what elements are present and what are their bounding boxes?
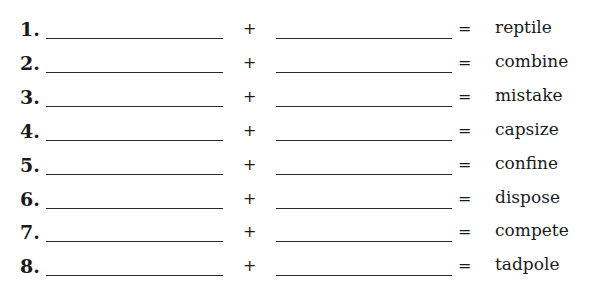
second-syllable-blank[interactable] [276,140,452,141]
item-number: 5. [20,154,40,176]
item-number: 3. [20,86,40,108]
first-syllable-blank[interactable] [46,275,223,276]
second-syllable-blank[interactable] [276,241,452,242]
second-syllable-blank[interactable] [276,72,452,73]
second-syllable-blank[interactable] [276,38,452,39]
target-word: combine [495,50,568,72]
plus-sign: + [243,87,256,107]
plus-sign: + [243,53,256,73]
item-number: 6. [20,188,40,210]
first-syllable-blank[interactable] [46,38,223,39]
plus-sign: + [243,256,256,276]
worksheet-row: 4. + = capsize [0,120,602,154]
target-word: dispose [495,186,560,208]
equals-sign: = [458,19,471,39]
worksheet-row: 2. + = combine [0,52,602,86]
equals-sign: = [458,256,471,276]
first-syllable-blank[interactable] [46,208,223,209]
worksheet-row: 1. + = reptile [0,18,602,52]
second-syllable-blank[interactable] [276,208,452,209]
first-syllable-blank[interactable] [46,174,223,175]
item-number: 7. [20,221,40,243]
target-word: confine [495,152,558,174]
target-word: tadpole [495,253,559,275]
target-word: reptile [495,16,552,38]
worksheet-row: 7. + = compete [0,221,602,255]
plus-sign: + [243,19,256,39]
plus-sign: + [243,155,256,175]
first-syllable-blank[interactable] [46,140,223,141]
item-number: 4. [20,120,40,142]
target-word: mistake [495,84,563,106]
plus-sign: + [243,222,256,242]
second-syllable-blank[interactable] [276,106,452,107]
worksheet-row: 3. + = mistake [0,86,602,120]
first-syllable-blank[interactable] [46,106,223,107]
second-syllable-blank[interactable] [276,275,452,276]
first-syllable-blank[interactable] [46,241,223,242]
equals-sign: = [458,53,471,73]
target-word: capsize [495,118,559,140]
item-number: 8. [20,255,40,277]
plus-sign: + [243,189,256,209]
item-number: 2. [20,52,40,74]
equals-sign: = [458,121,471,141]
worksheet-row: 5. + = confine [0,154,602,188]
plus-sign: + [243,121,256,141]
second-syllable-blank[interactable] [276,174,452,175]
equals-sign: = [458,155,471,175]
equals-sign: = [458,87,471,107]
first-syllable-blank[interactable] [46,72,223,73]
item-number: 1. [20,18,40,40]
worksheet-row: 8. + = tadpole [0,255,602,289]
equals-sign: = [458,189,471,209]
worksheet-row: 6. + = dispose [0,188,602,222]
target-word: compete [495,219,569,241]
equals-sign: = [458,222,471,242]
